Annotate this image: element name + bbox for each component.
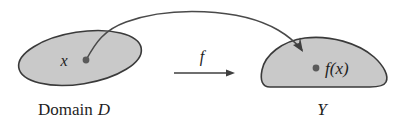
codomain-caption: Y [317,100,328,119]
domain-caption-prefix: Domain [38,100,93,119]
diagram-canvas: x f f(x) DomainD Y [0,0,395,123]
domain-caption-symbol: D [97,100,111,119]
domain-caption: DomainD [38,100,111,119]
codomain-point-label: f(x) [325,59,349,78]
domain-region-shape [15,23,146,94]
domain-point-label: x [59,52,67,69]
function-arrow-head [226,70,235,77]
function-label: f [200,48,207,66]
domain-point-dot [83,57,90,64]
codomain-point-dot [313,65,320,72]
function-mapping-figure: x f f(x) DomainD Y [0,0,395,123]
